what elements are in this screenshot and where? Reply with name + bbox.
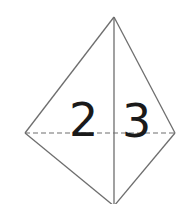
solid-diagram: 2 3	[0, 0, 191, 204]
face-label-left: 2	[69, 93, 98, 147]
face-label-right: 3	[122, 94, 151, 148]
